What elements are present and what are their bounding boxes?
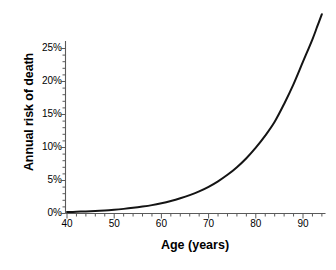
y-axis-ticks bbox=[61, 49, 66, 214]
data-line-annual-risk-of-death bbox=[67, 14, 322, 212]
x-axis-ticks bbox=[67, 214, 322, 219]
axis-lines bbox=[66, 41, 326, 214]
data-series-layer bbox=[67, 14, 322, 212]
chart-container: Annual risk of death Age (years) 0%5%10%… bbox=[0, 0, 336, 270]
plot-area bbox=[0, 0, 336, 270]
